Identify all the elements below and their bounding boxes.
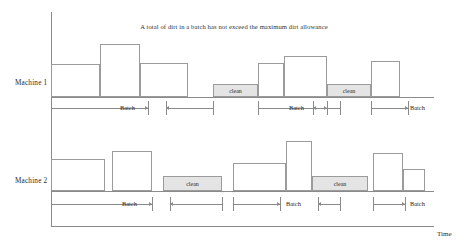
clean-label: clean (229, 88, 242, 94)
batch-label: Batch (286, 200, 301, 207)
baseline-machine-2 (51, 191, 434, 192)
job-bar (233, 163, 286, 191)
batch-boundary-tick (148, 101, 149, 115)
job-bar (258, 63, 284, 97)
batch-boundary-tick (280, 197, 281, 211)
clean-label: clean (343, 88, 356, 94)
row-label-machine-1: Machine 1 (15, 79, 47, 87)
batch-label: Batch (120, 104, 135, 111)
batch-arrow-head (318, 202, 321, 206)
job-bar (140, 63, 188, 97)
batch-arrow-head (166, 106, 169, 110)
batch-arrow-head (402, 202, 405, 206)
row-label-machine-2: Machine 2 (15, 177, 47, 185)
batch-boundary-tick (222, 197, 223, 211)
batch-span-line (371, 108, 408, 109)
batch-arrow-head (277, 202, 280, 206)
batch-label: Batch (122, 200, 137, 207)
batch-boundary-tick (213, 101, 214, 115)
batch-arrow-head (145, 106, 148, 110)
batch-boundary-tick (152, 197, 153, 211)
vertical-axis (51, 12, 52, 227)
job-bar (403, 169, 425, 191)
job-bar (284, 56, 327, 97)
job-bar (51, 159, 105, 191)
batch-label: Batch (289, 104, 304, 111)
batch-boundary-tick (340, 197, 341, 211)
dirt-allowance-gantt-diagram: A total of dirt in a batch has not excee… (0, 0, 468, 244)
axis-label-time: Time (437, 230, 452, 238)
clean-block: clean (213, 84, 258, 97)
job-bar (100, 44, 140, 97)
batch-label: Batch (410, 200, 425, 207)
batch-span-line (233, 204, 280, 205)
clean-label: clean (186, 181, 199, 187)
batch-arrow-head (170, 202, 173, 206)
batch-span-line (166, 108, 213, 109)
batch-arrow-head (313, 106, 316, 110)
batch-boundary-tick (340, 101, 341, 115)
baseline-machine-1 (51, 97, 434, 98)
job-bar (51, 64, 100, 97)
clean-block: clean (312, 176, 368, 191)
batch-span-line (313, 108, 340, 109)
job-bar (373, 153, 403, 191)
time-axis (51, 226, 434, 227)
batch-boundary-tick (408, 101, 409, 115)
clean-block: clean (163, 176, 222, 191)
page-title: A total of dirt in a batch has not excee… (0, 23, 468, 30)
batch-label: Batch (410, 104, 425, 111)
batch-span-line (170, 204, 222, 205)
clean-label: clean (334, 181, 347, 187)
batch-span-line (373, 204, 405, 205)
batch-arrow-head (149, 202, 152, 206)
job-bar (371, 61, 400, 97)
job-bar (112, 151, 152, 191)
batch-boundary-tick (405, 197, 406, 211)
batch-span-line (318, 204, 340, 205)
job-bar (286, 141, 312, 191)
batch-arrow-head (405, 106, 408, 110)
clean-block: clean (327, 84, 371, 97)
